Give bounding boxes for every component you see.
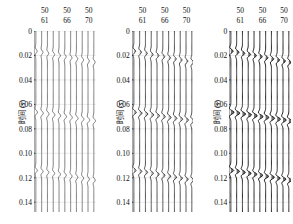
seismic-trace xyxy=(144,31,148,212)
seismic-trace xyxy=(76,31,78,212)
header-column: 5066 xyxy=(63,6,71,26)
y-tick-label: 0.08 xyxy=(214,124,227,133)
seismic-trace xyxy=(64,31,66,212)
header-bottom-value: 61 xyxy=(236,16,244,26)
y-axis-panel-3: 时间 (s)00.020.040.060.080.100.120.14 xyxy=(195,0,229,224)
y-tick-label: 0 xyxy=(126,27,130,36)
y-tick-label: 0.04 xyxy=(214,75,227,84)
right-panel: 时间 (s)00.020.040.060.080.100.120.1450615… xyxy=(195,0,293,224)
y-tick-label: 0.12 xyxy=(214,173,227,182)
y-tick-label: 0.08 xyxy=(117,124,130,133)
y-tick-label: 0.04 xyxy=(117,75,130,84)
header-top-value: 50 xyxy=(236,6,244,16)
seismic-trace xyxy=(276,31,281,212)
header-column: 5066 xyxy=(259,6,267,26)
seismic-trace xyxy=(47,31,49,212)
y-tick-label: 0.12 xyxy=(117,173,130,182)
seismic-trace xyxy=(230,31,235,212)
panel-header: 506150665070 xyxy=(229,0,293,31)
header-bottom-value: 66 xyxy=(63,16,71,26)
wiggle-plot xyxy=(132,31,194,212)
header-top-value: 50 xyxy=(161,6,169,16)
y-tick-label: 0 xyxy=(224,27,228,36)
wiggle-plot xyxy=(34,31,96,212)
y-tick-labels: 00.020.040.060.080.100.120.14 xyxy=(106,0,130,224)
plot-area-panel-2: 506150665070 xyxy=(132,0,196,224)
y-tick-label: 0.14 xyxy=(117,198,130,207)
seismic-trace xyxy=(35,31,37,212)
header-column: 5070 xyxy=(280,6,288,26)
y-tick-labels: 00.020.040.060.080.100.120.14 xyxy=(8,0,32,224)
seismic-trace xyxy=(247,31,252,212)
header-bottom-value: 66 xyxy=(259,16,267,26)
y-tick-label: 0.08 xyxy=(19,124,32,133)
panel-header: 506150665070 xyxy=(132,0,196,31)
y-tick-label: 0.06 xyxy=(117,100,130,109)
header-top-value: 50 xyxy=(85,6,93,16)
header-top-value: 50 xyxy=(63,6,71,16)
seismic-figure: 时间 (s)00.020.040.060.080.100.120.1450615… xyxy=(0,0,293,224)
seismic-trace xyxy=(58,31,60,212)
y-tick-label: 0.02 xyxy=(214,51,227,60)
seismic-trace xyxy=(132,31,135,212)
y-tick-label: 0.14 xyxy=(214,198,227,207)
header-column: 5061 xyxy=(41,6,49,26)
y-tick-label: 0.04 xyxy=(19,75,32,84)
y-axis-panel-2: 时间 (s)00.020.040.060.080.100.120.14 xyxy=(98,0,132,224)
plot-area-panel-1: 506150665070 xyxy=(34,0,98,224)
seismic-trace xyxy=(236,31,241,212)
seismic-trace xyxy=(93,31,95,212)
seismic-trace xyxy=(259,31,264,212)
y-tick-label: 0.06 xyxy=(214,100,227,109)
seismic-trace xyxy=(179,31,183,212)
header-column: 5061 xyxy=(139,6,147,26)
header-bottom-value: 70 xyxy=(280,16,288,26)
header-bottom-value: 70 xyxy=(85,16,93,26)
header-top-value: 50 xyxy=(280,6,288,16)
seismic-trace xyxy=(161,31,164,212)
seismic-trace xyxy=(253,31,258,212)
seismic-trace xyxy=(138,31,142,212)
seismic-trace xyxy=(52,31,54,212)
seismic-trace xyxy=(241,31,246,212)
y-tick-label: 0.10 xyxy=(117,149,130,158)
header-column: 5070 xyxy=(85,6,93,26)
wiggle-plot xyxy=(229,31,291,212)
header-bottom-value: 66 xyxy=(161,16,169,26)
header-top-value: 50 xyxy=(139,6,147,16)
header-column: 5066 xyxy=(161,6,169,26)
header-column: 5070 xyxy=(183,6,191,26)
y-tick-label: 0 xyxy=(28,27,32,36)
y-tick-label: 0.06 xyxy=(19,100,32,109)
y-tick-labels: 00.020.040.060.080.100.120.14 xyxy=(203,0,227,224)
seismic-trace xyxy=(70,31,72,212)
seismic-trace xyxy=(87,31,89,212)
y-tick-label: 0.10 xyxy=(214,149,227,158)
header-bottom-value: 61 xyxy=(139,16,147,26)
header-top-value: 50 xyxy=(41,6,49,16)
plot-area-panel-3: 506150665070 xyxy=(229,0,293,224)
seismic-trace xyxy=(156,31,159,212)
seismic-trace xyxy=(81,31,83,212)
header-top-value: 50 xyxy=(259,6,267,16)
seismic-trace xyxy=(150,31,154,212)
middle-panel: 时间 (s)00.020.040.060.080.100.120.1450615… xyxy=(98,0,196,224)
header-bottom-value: 61 xyxy=(41,16,49,26)
y-tick-label: 0.02 xyxy=(19,51,32,60)
panel-header: 506150665070 xyxy=(34,0,98,31)
left-panel: 时间 (s)00.020.040.060.080.100.120.1450615… xyxy=(0,0,98,224)
seismic-trace xyxy=(41,31,43,212)
y-tick-label: 0.10 xyxy=(19,149,32,158)
header-bottom-value: 70 xyxy=(183,16,191,26)
y-axis-panel-1: 时间 (s)00.020.040.060.080.100.120.14 xyxy=(0,0,34,224)
seismic-trace xyxy=(282,31,287,212)
y-tick-label: 0.12 xyxy=(19,173,32,182)
header-column: 5061 xyxy=(236,6,244,26)
header-top-value: 50 xyxy=(183,6,191,16)
y-tick-label: 0.02 xyxy=(117,51,130,60)
y-tick-label: 0.14 xyxy=(19,198,32,207)
